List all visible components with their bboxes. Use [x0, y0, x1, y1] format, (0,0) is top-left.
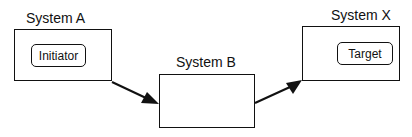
- connector-arrows: [0, 0, 412, 137]
- arrow-a-to-b: [112, 82, 159, 104]
- arrow-b-to-x: [255, 80, 302, 103]
